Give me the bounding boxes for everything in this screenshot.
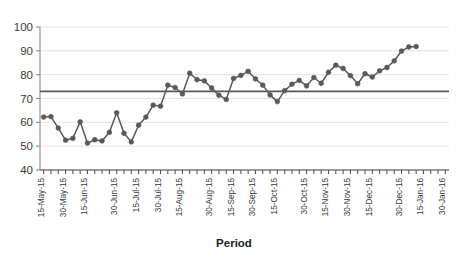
data-point-marker bbox=[370, 75, 375, 80]
data-point-marker bbox=[355, 81, 360, 86]
data-point-marker bbox=[311, 75, 316, 80]
data-point-marker bbox=[282, 88, 287, 93]
x-tick-label: 15-Jul-15 bbox=[132, 178, 141, 213]
data-point-marker bbox=[304, 83, 309, 88]
data-point-marker bbox=[100, 139, 105, 144]
x-tick-label: 30-Jul-15 bbox=[154, 178, 163, 213]
data-point-marker bbox=[297, 78, 302, 83]
data-point-marker bbox=[319, 81, 324, 86]
data-point-marker bbox=[275, 99, 280, 104]
data-point-marker bbox=[202, 78, 207, 83]
y-tick-label: 50 bbox=[20, 140, 33, 152]
data-point-marker bbox=[129, 139, 134, 144]
data-point-marker bbox=[268, 93, 273, 98]
data-point-marker bbox=[341, 66, 346, 71]
x-tick-label: 30-Nov-15 bbox=[343, 178, 352, 217]
data-point-marker bbox=[217, 93, 222, 98]
x-axis-title-group: Period bbox=[216, 237, 252, 249]
x-tick-label: 15-Sep-15 bbox=[227, 178, 236, 217]
x-tick-label: 30-Oct-15 bbox=[300, 178, 309, 215]
x-axis-title: Period bbox=[216, 237, 252, 249]
y-tick-label: 40 bbox=[20, 164, 33, 176]
data-point-marker bbox=[151, 103, 156, 108]
x-tick-label: 30-Sep-15 bbox=[248, 178, 257, 217]
data-point-marker bbox=[348, 73, 353, 78]
x-tick-labels: 15-May-1530-May-1515-Jun-1530-Jun-1515-J… bbox=[37, 178, 448, 218]
y-tick-labels: 405060708090100 bbox=[14, 21, 33, 176]
data-point-marker bbox=[144, 115, 149, 120]
data-point-marker bbox=[209, 86, 214, 91]
data-point-marker bbox=[260, 83, 265, 88]
x-tick-label: 15-Aug-15 bbox=[175, 178, 184, 217]
data-point-marker bbox=[392, 58, 397, 63]
data-point-marker bbox=[173, 85, 178, 90]
data-point-marker bbox=[41, 115, 46, 120]
data-point-marker bbox=[406, 45, 411, 50]
data-point-marker bbox=[238, 73, 243, 78]
data-point-marker bbox=[85, 141, 90, 146]
y-tick-label: 70 bbox=[20, 93, 33, 105]
x-tick-label: 15-Jun-15 bbox=[80, 178, 89, 215]
x-tick-marks bbox=[44, 170, 446, 174]
y-tick-label: 90 bbox=[20, 45, 33, 57]
y-tick-label: 100 bbox=[14, 21, 33, 33]
x-tick-label: 30-Dec-15 bbox=[395, 178, 404, 217]
data-point-marker bbox=[414, 44, 419, 49]
data-point-marker bbox=[377, 68, 382, 73]
data-point-marker bbox=[385, 65, 390, 70]
x-tick-label: 30-Jun-15 bbox=[110, 178, 119, 215]
data-point-marker bbox=[180, 92, 185, 97]
x-tick-label: 15-Oct-15 bbox=[270, 178, 279, 215]
data-point-marker bbox=[326, 70, 331, 75]
chart-container: 405060708090100 15-May-1530-May-1515-Jun… bbox=[0, 0, 466, 259]
x-tick-label: 30-Aug-15 bbox=[205, 178, 214, 217]
x-tick-label: 15-Nov-15 bbox=[321, 178, 330, 217]
data-point-marker bbox=[224, 97, 229, 102]
data-point-marker bbox=[70, 136, 75, 141]
data-point-marker bbox=[49, 114, 54, 119]
data-point-marker bbox=[63, 138, 68, 143]
data-point-marker bbox=[114, 110, 119, 115]
x-tick-label: 15-May-15 bbox=[37, 178, 46, 218]
data-point-marker bbox=[107, 130, 112, 135]
data-point-marker bbox=[399, 49, 404, 54]
data-point-marker bbox=[165, 83, 170, 88]
data-point-marker bbox=[78, 119, 83, 124]
data-point-marker bbox=[333, 63, 338, 68]
data-point-marker bbox=[158, 104, 163, 109]
line-chart: 405060708090100 15-May-1530-May-1515-Jun… bbox=[0, 0, 466, 259]
data-point-marker bbox=[195, 77, 200, 82]
data-point-marker bbox=[290, 82, 295, 87]
data-point-marker bbox=[56, 126, 61, 131]
x-tick-label: 15-Dec-15 bbox=[365, 178, 374, 217]
data-point-marker bbox=[231, 76, 236, 81]
x-tick-label: 15-Jan-16 bbox=[416, 178, 425, 215]
data-point-marker bbox=[363, 71, 368, 76]
data-point-marker bbox=[122, 131, 127, 136]
x-tick-label: 30-Jan-16 bbox=[438, 178, 447, 215]
x-tick-label: 30-May-15 bbox=[59, 178, 68, 218]
y-tick-marks bbox=[36, 27, 40, 170]
data-point-marker bbox=[246, 69, 251, 74]
data-point-marker bbox=[92, 137, 97, 142]
data-point-marker bbox=[187, 71, 192, 76]
data-point-marker bbox=[253, 77, 258, 82]
data-point-marker bbox=[136, 123, 141, 128]
y-tick-label: 80 bbox=[20, 69, 33, 81]
y-tick-label: 60 bbox=[20, 116, 33, 128]
